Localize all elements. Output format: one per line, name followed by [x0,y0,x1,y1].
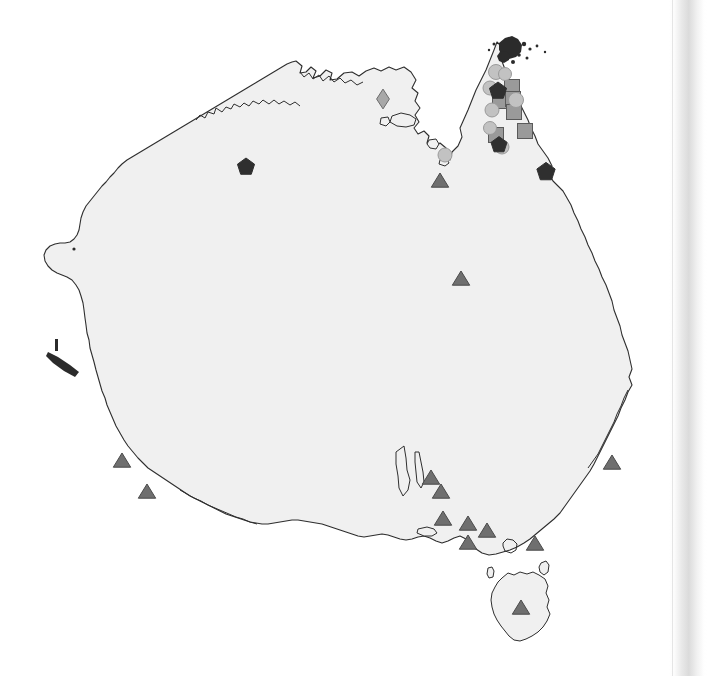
torres-islet-i [488,49,490,51]
flinders-island-outline [539,561,549,575]
map-marker-circle [509,93,524,108]
torres-islet-h [493,43,496,46]
shark-bay-islet [72,247,75,250]
map-marker-circle [438,148,452,162]
torres-islet-j [511,60,515,64]
figure-root [0,0,707,676]
map-marker-triangle [138,484,155,498]
torres-islet-g [526,57,529,60]
map-marker-triangle [603,455,620,469]
torres-islet-k [544,51,546,53]
torres-islet-c [522,42,526,46]
map-marker-circle [485,103,499,117]
australia-map [0,0,707,676]
mainland-group [44,42,632,555]
torres-islet-e [536,45,539,48]
map-marker-circle [499,68,512,81]
map-marker-circle [484,122,497,135]
tasmania-group [487,561,550,641]
king-island-outline [487,567,494,578]
torres-islet-d [528,47,531,50]
map-marker-triangle [113,453,130,467]
west-coast-islet-b [46,352,79,377]
australia-mainland-outline [44,42,632,555]
torres-islet-f [517,53,521,57]
west-coast-islet-a [55,339,58,351]
map-marker-square [518,124,533,139]
